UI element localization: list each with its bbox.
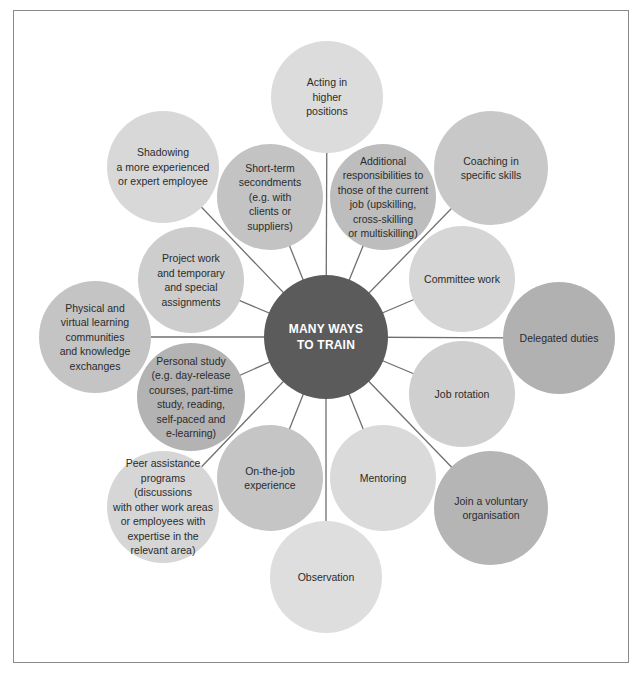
node-label: Acting in higher positions	[306, 75, 347, 119]
node-peer: Peer assistance programs (discussions wi…	[107, 451, 219, 563]
node-committee: Committee work	[409, 226, 515, 332]
node-voluntary: Join a voluntary organisation	[434, 451, 548, 565]
node-coaching: Coaching in specific skills	[434, 111, 548, 225]
node-label: Shadowing a more experienced or expert e…	[117, 145, 210, 189]
node-personal-study: Personal study (e.g. day-release courses…	[137, 343, 245, 451]
node-label: Delegated duties	[520, 331, 599, 346]
node-label: Mentoring	[360, 471, 407, 486]
node-delegated: Delegated duties	[503, 282, 615, 394]
node-physical: Physical and virtual learning communitie…	[39, 281, 151, 393]
node-observation: Observation	[270, 521, 382, 633]
node-shadowing: Shadowing a more experienced or expert e…	[107, 111, 219, 223]
node-label: Short-term secondments (e.g. with client…	[239, 161, 301, 234]
node-acting: Acting in higher positions	[271, 41, 383, 153]
node-on-the-job: On-the-job experience	[217, 425, 323, 531]
node-label: Committee work	[424, 272, 500, 287]
node-label: Personal study (e.g. day-release courses…	[149, 354, 233, 441]
node-label: Physical and virtual learning communitie…	[60, 301, 131, 374]
center-node: MANY WAYS TO TRAIN	[264, 275, 388, 399]
center-title: MANY WAYS TO TRAIN	[289, 321, 364, 353]
node-label: Job rotation	[435, 387, 490, 402]
node-label: Project work and temporary and special a…	[157, 251, 225, 309]
node-label: Observation	[298, 570, 355, 585]
node-mentoring: Mentoring	[330, 425, 436, 531]
node-label: Peer assistance programs (discussions wi…	[113, 456, 213, 558]
node-additional: Additional responsibilities to those of …	[330, 144, 436, 250]
node-label: Coaching in specific skills	[461, 154, 522, 183]
node-label: Join a voluntary organisation	[454, 494, 528, 523]
node-job-rotation: Job rotation	[409, 341, 515, 447]
node-label: On-the-job experience	[244, 464, 295, 493]
node-label: Additional responsibilities to those of …	[338, 154, 428, 241]
node-project: Project work and temporary and special a…	[138, 227, 244, 333]
node-short-term: Short-term secondments (e.g. with client…	[217, 144, 323, 250]
